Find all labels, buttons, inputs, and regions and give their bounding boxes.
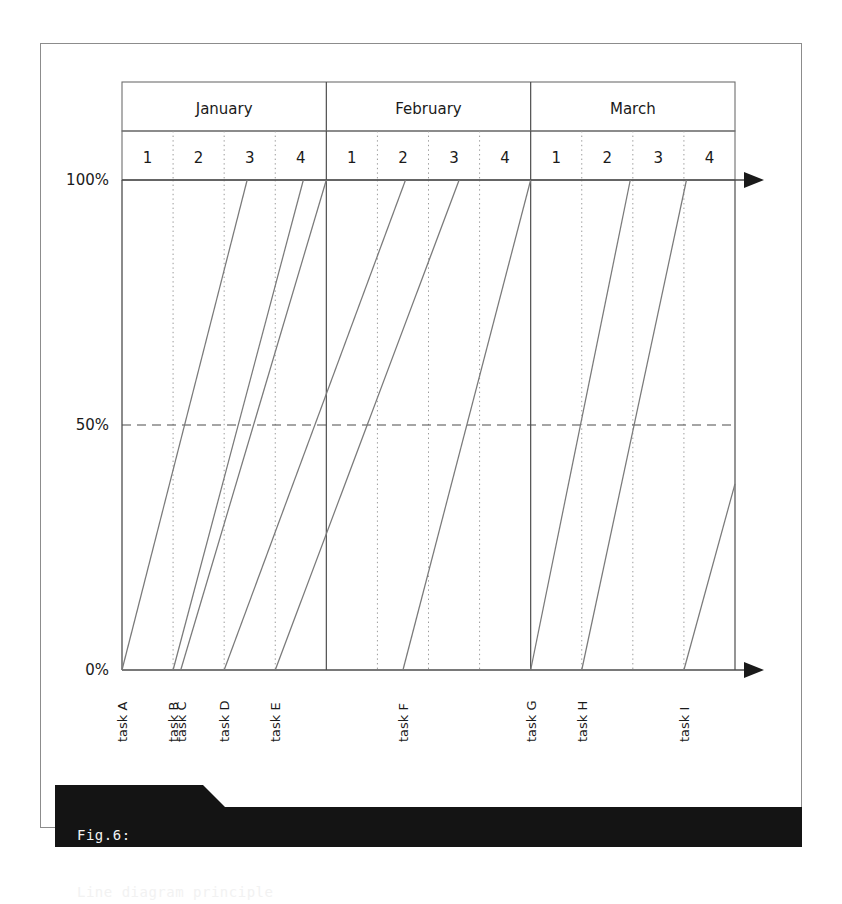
figure-caption-bar: Fig.6: Line diagram principle [55,785,802,847]
caption-number: Fig.6: [77,826,273,845]
caption-text-block: Fig.6: Line diagram principle [77,788,273,904]
figure-outer-frame [40,43,802,828]
caption-title: Line diagram principle [77,883,273,902]
